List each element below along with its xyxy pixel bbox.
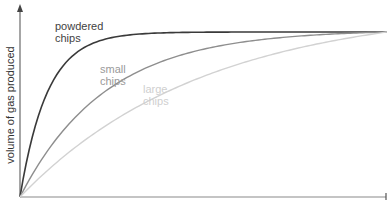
- y-axis-arrow-icon: [17, 4, 23, 12]
- curves-group: [20, 32, 387, 197]
- powdered-chips-label: powdered chips: [55, 20, 103, 44]
- small-label-line1: small: [100, 63, 126, 75]
- powdered-label-line2: chips: [55, 32, 103, 44]
- powdered-chips-curve: [20, 32, 387, 197]
- powdered-label-line1: powdered: [55, 20, 103, 32]
- small-chips-curve: [20, 32, 387, 197]
- large-chips-label: large chips: [143, 83, 169, 107]
- small-label-line2: chips: [100, 75, 126, 87]
- small-chips-label: small chips: [100, 63, 126, 87]
- large-label-line1: large: [143, 83, 169, 95]
- large-label-line2: chips: [143, 95, 169, 107]
- large-chips-curve: [20, 32, 387, 197]
- y-axis-label: volume of gas produced: [4, 46, 16, 163]
